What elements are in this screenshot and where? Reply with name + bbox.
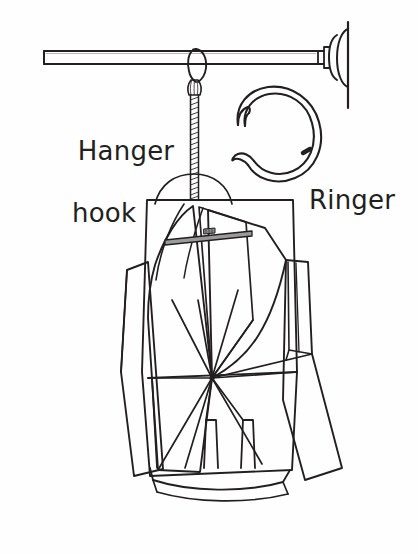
label-hanger-hook: Hanger hook [44,105,174,291]
pattern-side-panel-right [283,260,342,480]
coiled-cord [191,95,199,200]
wall-mount-disc [318,22,348,108]
seam-convergence-lines [148,290,312,470]
technical-line-drawing: Hanger hook Ringer [0,0,418,554]
hanger-rail [44,51,318,64]
label-hanger-hook-line2: hook [44,198,174,229]
ring-gap-marker [303,149,310,153]
seam-convergence-point [209,375,214,380]
label-ringer: Ringer [309,185,395,216]
ringer-split-ring [232,87,321,182]
hanger-hook-loop [188,49,206,82]
swivel-clasp [188,80,201,95]
label-hanger-hook-line1: Hanger [78,136,174,166]
